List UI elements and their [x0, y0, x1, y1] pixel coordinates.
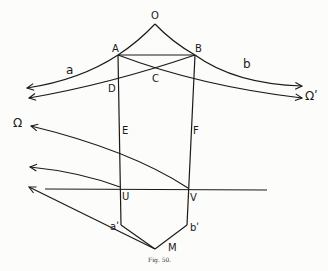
label-a-prime: aʹ: [110, 221, 119, 232]
label-e: E: [122, 125, 128, 136]
curve-v-omega: [31, 126, 188, 188]
label-u: U: [122, 191, 129, 202]
label-d: D: [108, 83, 116, 94]
label-v: V: [190, 192, 197, 203]
label-b: B: [195, 43, 202, 54]
curve-through-a-c: [118, 55, 302, 98]
label-curve-b: b: [243, 57, 251, 71]
arc-o-a: [118, 24, 155, 55]
label-omega-prime: Ωʹ: [305, 89, 318, 103]
label-m: M: [168, 242, 177, 253]
line-u-v: [45, 189, 267, 190]
label-curve-a: a: [66, 63, 73, 77]
line-a-u: [118, 55, 121, 225]
line-m-left: [29, 187, 155, 249]
label-omega: Ω: [13, 116, 22, 130]
label-a: A: [112, 43, 119, 54]
label-o: O: [151, 10, 159, 21]
curve-u-left: [30, 167, 120, 187]
label-c: C: [152, 73, 159, 84]
line-a-prime-m: [121, 225, 155, 249]
arc-o-b: [155, 24, 195, 55]
geometry-figure: O A B C D E F U V aʹ bʹ M a b Ω Ωʹ Fig. …: [0, 0, 328, 271]
label-b-prime: bʹ: [190, 222, 199, 233]
figure-caption: Fig. 50.: [148, 256, 171, 264]
label-f: F: [193, 125, 199, 136]
